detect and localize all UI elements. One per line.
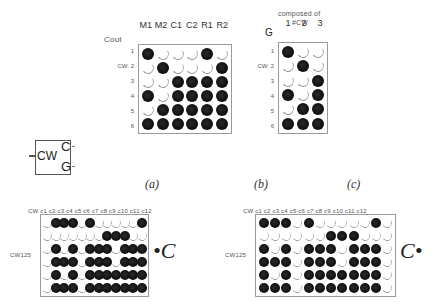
grid-cell (303, 243, 314, 256)
empty-circle-icon (281, 231, 291, 241)
filled-circle-icon (137, 218, 147, 228)
empty-circle-icon (382, 244, 392, 254)
grid-cell (314, 230, 325, 243)
empty-circle-icon (270, 244, 280, 254)
empty-circle-icon (270, 231, 280, 241)
filled-circle-icon (157, 104, 169, 116)
row-label: 1 (131, 48, 134, 54)
filled-circle-icon (137, 257, 147, 267)
grid-cell (326, 243, 337, 256)
output-port-g-icon (72, 166, 75, 167)
filled-circle-icon (315, 257, 325, 267)
grid-cell (371, 243, 382, 256)
grid-cell (156, 89, 171, 103)
grid-cell (314, 217, 325, 230)
grid-cell (359, 268, 370, 281)
grid-cell (281, 45, 296, 59)
empty-circle-icon (142, 104, 154, 116)
grid-cell (170, 89, 185, 103)
row-label: 6 (271, 123, 274, 129)
empty-circle-icon (142, 62, 154, 74)
grid-cell (326, 268, 337, 281)
grid-cell (296, 102, 311, 116)
filled-circle-icon (297, 60, 309, 72)
empty-circle-icon (201, 62, 213, 74)
filled-circle-icon (157, 118, 169, 130)
panel-e-side-label: C• (400, 238, 422, 264)
filled-circle-icon (360, 257, 370, 267)
filled-circle-icon (371, 244, 381, 254)
grid-cell (281, 102, 296, 116)
filled-circle-icon (337, 283, 347, 293)
filled-circle-icon (186, 76, 198, 88)
filled-circle-icon (216, 118, 228, 130)
grid-cell (214, 75, 229, 89)
grid-cell (337, 255, 348, 268)
empty-circle-icon (382, 270, 392, 280)
empty-circle-icon (315, 218, 325, 228)
grid-cell (137, 230, 146, 243)
empty-circle-icon (312, 46, 324, 58)
row-label: 5 (271, 108, 274, 114)
grid-cell (185, 75, 200, 89)
grid-cell (296, 117, 311, 131)
empty-circle-icon (216, 48, 228, 60)
empty-circle-icon (292, 257, 302, 267)
grid-cell (382, 255, 393, 268)
row-label: 4 (131, 93, 134, 99)
empty-circle-icon (259, 231, 269, 241)
row-label: CW: 2 (117, 63, 134, 69)
grid-cell (382, 268, 393, 281)
empty-circle-icon (270, 270, 280, 280)
panel-c-title: composed of (278, 10, 320, 17)
grid-cell (185, 117, 200, 131)
filled-circle-icon (312, 75, 324, 87)
empty-circle-icon (371, 231, 381, 241)
grid-cell (348, 230, 359, 243)
grid-cell (141, 103, 156, 117)
filled-circle-icon (315, 270, 325, 280)
row-label: 5 (131, 108, 134, 114)
grid-cell (141, 75, 156, 89)
grid-cell (185, 103, 200, 117)
grid-cell (371, 268, 382, 281)
panel-a-caption: (a) (145, 177, 159, 192)
panel-a-row-labels: 1CW: 23456 (100, 45, 136, 135)
filled-circle-icon (281, 244, 291, 254)
filled-circle-icon (186, 90, 198, 102)
grid-cell (170, 47, 185, 61)
panel-e-row-label: CW125 (225, 252, 246, 258)
filled-circle-icon (360, 244, 370, 254)
filled-circle-icon (304, 257, 314, 267)
empty-circle-icon (315, 231, 325, 241)
panel-c-corner-label: G (265, 27, 273, 38)
grid-cell (310, 117, 325, 131)
row-label: 6 (131, 123, 134, 129)
grid-cell (281, 268, 292, 281)
grid-cell (281, 88, 296, 102)
grid-cell (382, 217, 393, 230)
empty-circle-icon (297, 46, 309, 58)
filled-circle-icon (304, 283, 314, 293)
grid-cell (314, 268, 325, 281)
grid-cell (170, 61, 185, 75)
grid-cell (348, 255, 359, 268)
filled-circle-icon (349, 257, 359, 267)
grid-cell (348, 217, 359, 230)
grid-cell (258, 217, 269, 230)
panel-d-row-label: CW125 (10, 252, 31, 258)
grid-cell (359, 243, 370, 256)
grid-cell (214, 61, 229, 75)
empty-circle-icon (326, 218, 336, 228)
empty-circle-icon (337, 218, 347, 228)
grid-cell (156, 103, 171, 117)
panel-d-grid (40, 214, 149, 297)
grid-cell (326, 230, 337, 243)
grid-cell (200, 117, 215, 131)
grid-cell (296, 45, 311, 59)
filled-circle-icon (315, 283, 325, 293)
filled-circle-icon (216, 62, 228, 74)
grid-cell (359, 217, 370, 230)
panel-b-caption: (b) (254, 177, 268, 192)
cw-block-output-c: C (61, 139, 70, 154)
